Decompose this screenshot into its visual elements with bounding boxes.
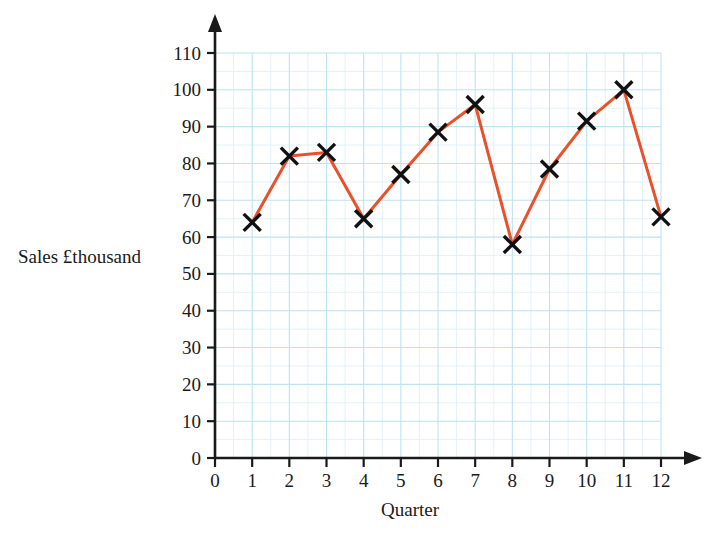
y-axis-tick-label: 40 <box>182 300 201 321</box>
x-axis-tick-label: 8 <box>508 470 518 491</box>
x-axis-arrowhead <box>684 451 702 465</box>
x-axis-tick-label: 9 <box>545 470 555 491</box>
x-axis-tick-label: 2 <box>285 470 295 491</box>
y-axis-title: Sales £thousand <box>18 246 141 267</box>
y-axis-tick-label: 50 <box>182 263 201 284</box>
y-axis-tick-label: 110 <box>173 43 201 64</box>
y-axis-tick-label: 100 <box>173 79 202 100</box>
axes <box>208 14 702 465</box>
y-axis-tick-label: 70 <box>182 190 201 211</box>
y-axis-arrowhead <box>208 14 222 32</box>
x-axis-tick-label: 3 <box>322 470 332 491</box>
y-axis-tick-label: 0 <box>192 448 202 469</box>
x-axis-tick-label: 6 <box>433 470 443 491</box>
chart-page: 0123456789101112 01020304050607080901001… <box>0 0 714 541</box>
y-axis-tick-label: 90 <box>182 116 201 137</box>
y-axis-tick-label: 10 <box>182 411 201 432</box>
y-axis-tick-label: 20 <box>182 374 201 395</box>
x-axis-tick-label: 4 <box>359 470 369 491</box>
line-chart: 0123456789101112 01020304050607080901001… <box>0 0 714 541</box>
x-axis-tick-label: 12 <box>652 470 671 491</box>
x-axis-tick-labels: 0123456789101112 <box>210 470 670 491</box>
y-axis-tick-label: 30 <box>182 337 201 358</box>
x-axis-tick-label: 5 <box>396 470 406 491</box>
y-axis-tick-labels: 0102030405060708090100110 <box>173 43 202 469</box>
x-axis-tick-label: 10 <box>577 470 596 491</box>
x-axis-tick-label: 1 <box>247 470 257 491</box>
x-axis-tick-label: 7 <box>470 470 480 491</box>
x-axis-tick-label: 11 <box>615 470 633 491</box>
x-axis-title: Quarter <box>381 499 440 520</box>
x-axis-tick-label: 0 <box>210 470 220 491</box>
y-axis-tick-label: 60 <box>182 227 201 248</box>
y-axis-tick-label: 80 <box>182 153 201 174</box>
